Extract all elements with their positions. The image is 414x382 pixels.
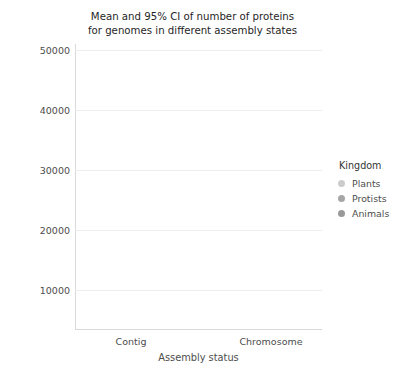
y-tick-label-20000: 20000 [20, 225, 70, 236]
gridline-10000 [75, 290, 322, 291]
y-tick-label-30000: 30000 [20, 165, 70, 176]
legend-swatch-protists [338, 195, 345, 202]
chart-figure: Mean and 95% CI of number of proteins fo… [0, 0, 414, 382]
chart-title-line-1: Mean and 95% CI of number of proteins [55, 10, 330, 24]
chart-title: Mean and 95% CI of number of proteins fo… [55, 10, 330, 37]
legend-label-plants: Plants [352, 178, 381, 189]
x-tick-label-contig: Contig [116, 336, 147, 347]
legend-item-plants[interactable]: Plants [338, 176, 414, 191]
legend-item-animals[interactable]: Animals [338, 206, 414, 221]
gridline-30000 [75, 170, 322, 171]
legend-title: Kingdom [338, 160, 414, 171]
x-axis-label: Assembly status [75, 352, 322, 363]
gridline-20000 [75, 230, 322, 231]
plot-background [75, 44, 322, 330]
x-tick-label-chromosome: Chromosome [239, 336, 302, 347]
legend-label-protists: Protists [352, 193, 387, 204]
y-tick-label-40000: 40000 [20, 105, 70, 116]
legend-swatch-plants [338, 180, 345, 187]
gridline-40000 [75, 110, 322, 111]
legend: Kingdom Plants Protists Animals [338, 160, 414, 221]
y-tick-label-10000: 10000 [20, 285, 70, 296]
y-tick-label-50000: 50000 [20, 45, 70, 56]
plot-area [75, 44, 322, 330]
gridline-50000 [75, 50, 322, 51]
legend-swatch-animals [338, 210, 345, 217]
legend-item-protists[interactable]: Protists [338, 191, 414, 206]
chart-title-line-2: for genomes in different assembly states [55, 24, 330, 38]
legend-label-animals: Animals [352, 208, 389, 219]
